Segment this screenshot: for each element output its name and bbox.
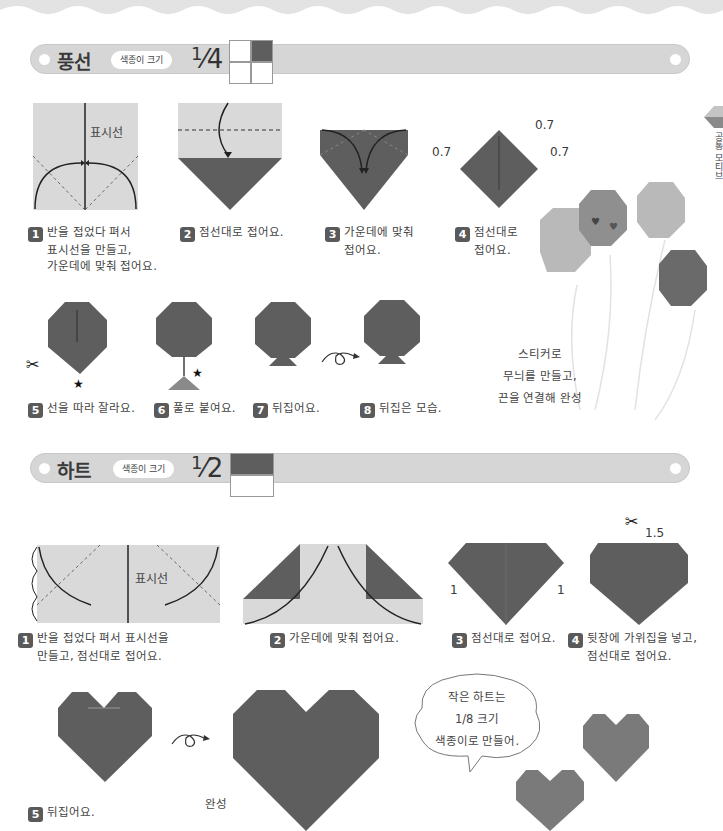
balloon-step4-caption: 4점선대로 접어요.: [455, 224, 518, 258]
heart-step4-diagram: [590, 543, 688, 625]
step-number-badge: 2: [180, 227, 195, 242]
heart-section-header: 하트 색종이 크기 1⁄2: [30, 453, 690, 483]
svg-text:♥: ♥: [591, 216, 600, 227]
balloon-step2-caption: 2점선대로 접어요.: [180, 224, 283, 242]
balloon-step6-diagram: ★: [154, 302, 214, 392]
heart-step3-caption: 3점선대로 접어요.: [452, 630, 555, 648]
balloon-step8-caption: 8뒤집은 모습.: [360, 400, 441, 418]
heart-step5-diagram: [58, 692, 152, 782]
band-hole: [670, 463, 681, 474]
paper-fraction: 1⁄2: [191, 452, 223, 483]
heart-step2-caption: 2가운데에 맞춰 접어요.: [270, 630, 399, 648]
balloon-step1-caption: 1반을 접었다 펴서 표시선을 만들고, 가운데에 맞춰 접어요.: [28, 224, 157, 274]
flip-over-icon: [320, 348, 362, 368]
balloon-step7-diagram: [253, 302, 313, 372]
band-hole: [39, 463, 50, 474]
paper-size-diagram: [229, 40, 273, 84]
balloon-step8-diagram: [362, 300, 422, 370]
paper-size-label: 색종이 크기: [111, 51, 172, 69]
measure-label: 1: [557, 583, 565, 597]
balloon-step2-diagram: [178, 103, 282, 211]
balloon-step5-caption: 5선을 따라 잘라요.: [28, 400, 135, 418]
star-icon: ★: [73, 377, 84, 391]
balloon-step3-diagram: [320, 130, 408, 210]
fold-line-label: 표시선: [135, 569, 168, 586]
complete-label: 완성: [205, 793, 227, 815]
side-tab-label: 공통 모티브: [705, 132, 723, 180]
step-number-badge: 1: [28, 227, 43, 242]
balloon-step1-diagram: [33, 103, 138, 210]
speech-bubble-text: 작은 하트는1/8 크기색종이로 만들어.: [418, 686, 536, 752]
side-tab-marker-icon: [704, 104, 723, 130]
heart-step4-caption: 4뒷장에 가위집을 넣고,점선대로 접어요.: [568, 630, 697, 664]
paper-size-label: 색종이 크기: [113, 460, 174, 478]
fold-line-label: 표시선: [90, 123, 123, 140]
balloon-section-header: 풍선 색종이 크기 1⁄4: [30, 44, 690, 74]
balloon-step4-diagram: [460, 130, 538, 208]
heart-step3-diagram: [448, 543, 564, 625]
balloon-step3-caption: 3가운데에 맞춰 접어요.: [325, 224, 414, 258]
scissors-icon: ✂: [26, 355, 39, 374]
measure-label: 0.7: [432, 145, 451, 159]
balloon-finish-note: 스티커로무늬를 만들고,끈을 연결해 완성: [480, 343, 600, 409]
section-title: 하트: [57, 456, 91, 483]
small-heart-illustration: [516, 770, 584, 831]
scissors-icon: ✂: [625, 512, 638, 531]
section-title: 풍선: [57, 47, 91, 74]
band-hole: [670, 54, 681, 65]
heart-step1-caption: 1반을 접었다 펴서 표시선을만들고, 점선대로 접어요.: [18, 630, 169, 664]
balloon-step5-diagram: ★: [45, 302, 110, 382]
wavy-top-border: [0, 0, 723, 22]
balloon-step7-caption: 7뒤집어요.: [253, 400, 320, 418]
star-icon: ★: [192, 366, 203, 380]
svg-text:♥: ♥: [609, 221, 618, 232]
band-hole: [39, 54, 50, 65]
step-number-badge: 3: [325, 227, 340, 242]
measure-label: 0.7: [550, 145, 569, 159]
balloon-step6-caption: 6풀로 붙여요.: [154, 400, 235, 418]
measure-label: 1: [450, 583, 458, 597]
paper-size-diagram: [230, 453, 274, 497]
step-number-badge: 4: [455, 227, 470, 242]
flip-over-icon: [170, 730, 212, 750]
measure-label: 1.5: [645, 526, 664, 540]
heart-step2-diagram: [243, 544, 423, 624]
measure-label: 0.7: [535, 118, 554, 132]
small-heart-illustration: [583, 714, 649, 782]
heart-complete-diagram: [233, 690, 379, 831]
heart-step1-diagram: [25, 545, 220, 623]
paper-fraction: 1⁄4: [191, 43, 223, 74]
heart-step5-caption: 5뒤집어요.: [28, 804, 95, 822]
